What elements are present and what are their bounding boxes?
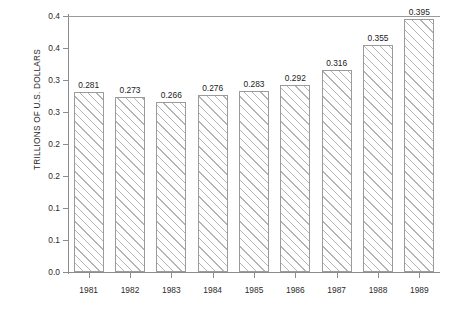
x-tick-label: 1981 [79,285,98,295]
x-tick-label: 1987 [327,285,346,295]
x-tick-label: 1986 [286,285,305,295]
x-tick-label: 1983 [162,285,181,295]
bar [280,85,310,272]
y-tick-label: 0.1 [48,235,60,245]
bar [404,19,434,272]
x-axis-ticks: 198119821983198419851986198719881989 [68,273,440,303]
y-tick-mark [63,176,68,177]
x-tick-label: 1989 [410,285,429,295]
y-tick-mark [63,208,68,209]
x-tick-label: 1984 [203,285,222,295]
x-tick-mark [419,273,420,278]
y-tick-mark [63,144,68,145]
x-tick-mark [89,273,90,278]
y-tick-label: 0.3 [48,75,60,85]
bar-value-label: 0.292 [285,73,306,83]
x-tick-mark [337,273,338,278]
y-tick-mark [63,48,68,49]
bar [115,97,145,272]
bar-value-label: 0.266 [161,90,182,100]
y-tick-label: 0.3 [48,107,60,117]
bar-value-label: 0.273 [120,85,141,95]
x-tick-mark [213,273,214,278]
bar-value-label: 0.316 [326,58,347,68]
y-tick-mark [63,16,68,17]
x-tick-label: 1988 [369,285,388,295]
y-tick-label: 0.2 [48,139,60,149]
y-tick-label: 0.1 [48,203,60,213]
x-tick-mark [254,273,255,278]
bar [322,70,352,272]
y-tick-label: 0.0 [48,267,60,277]
x-tick-label: 1985 [245,285,264,295]
y-tick-label: 0.2 [48,171,60,181]
bar-value-label: 0.355 [368,33,389,43]
bar-value-label: 0.395 [409,7,430,17]
bar-value-label: 0.283 [244,79,265,89]
bar [74,92,104,272]
plot-area: 0.00.10.10.20.20.30.30.40.4 [68,16,440,272]
y-tick-label: 0.4 [48,43,60,53]
bar [363,45,393,272]
bar [198,95,228,272]
bar [239,91,269,272]
y-axis-title: TRILLIONS OF U.S. DOLLARS [33,15,42,205]
y-tick-label: 0.4 [48,11,60,21]
x-tick-mark [378,273,379,278]
bar-chart-figure: TRILLIONS OF U.S. DOLLARS 0.00.10.10.20.… [0,0,449,311]
x-tick-mark [130,273,131,278]
y-tick-mark [63,80,68,81]
y-tick-mark [63,240,68,241]
bar-value-label: 0.281 [78,80,99,90]
bar [156,102,186,272]
x-tick-mark [295,273,296,278]
y-tick-mark [63,112,68,113]
x-tick-label: 1982 [121,285,140,295]
x-tick-mark [171,273,172,278]
bar-value-label: 0.276 [202,83,223,93]
cropped-title-strip [0,0,449,7]
